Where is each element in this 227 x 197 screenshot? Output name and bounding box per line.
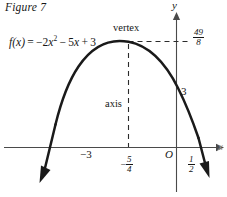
vertex-x-numerator: 5 (126, 155, 133, 164)
figure-panel: Figure 7 f(x) = −2x2 − 5x + 3 vert (0, 0, 227, 197)
vertex-x-value-fraction: − 5 4 (126, 155, 133, 175)
vertex-y-numerator: 49 (193, 28, 204, 37)
x-intercept-right-numerator: 1 (188, 155, 195, 164)
origin-label: O (165, 148, 173, 160)
x-intercept-right-fraction: 1 2 (188, 155, 195, 175)
x-intercept-left-label: −3 (80, 148, 92, 160)
vertex-x-minus-sign: − (120, 160, 127, 171)
y-intercept-label: 3 (181, 85, 187, 97)
x-intercept-right-denominator: 2 (188, 164, 195, 174)
vertex-y-denominator: 8 (193, 37, 204, 47)
x-axis (4, 144, 224, 151)
vertex-y-value-fraction: 49 8 (193, 28, 204, 48)
y-axis (173, 12, 180, 192)
vertex-label: vertex (113, 22, 139, 33)
axis-of-symmetry-label: axis (105, 98, 122, 109)
vertex-x-denominator: 4 (126, 164, 133, 174)
x-axis-label: x (218, 140, 223, 152)
y-axis-label: y (172, 0, 177, 11)
